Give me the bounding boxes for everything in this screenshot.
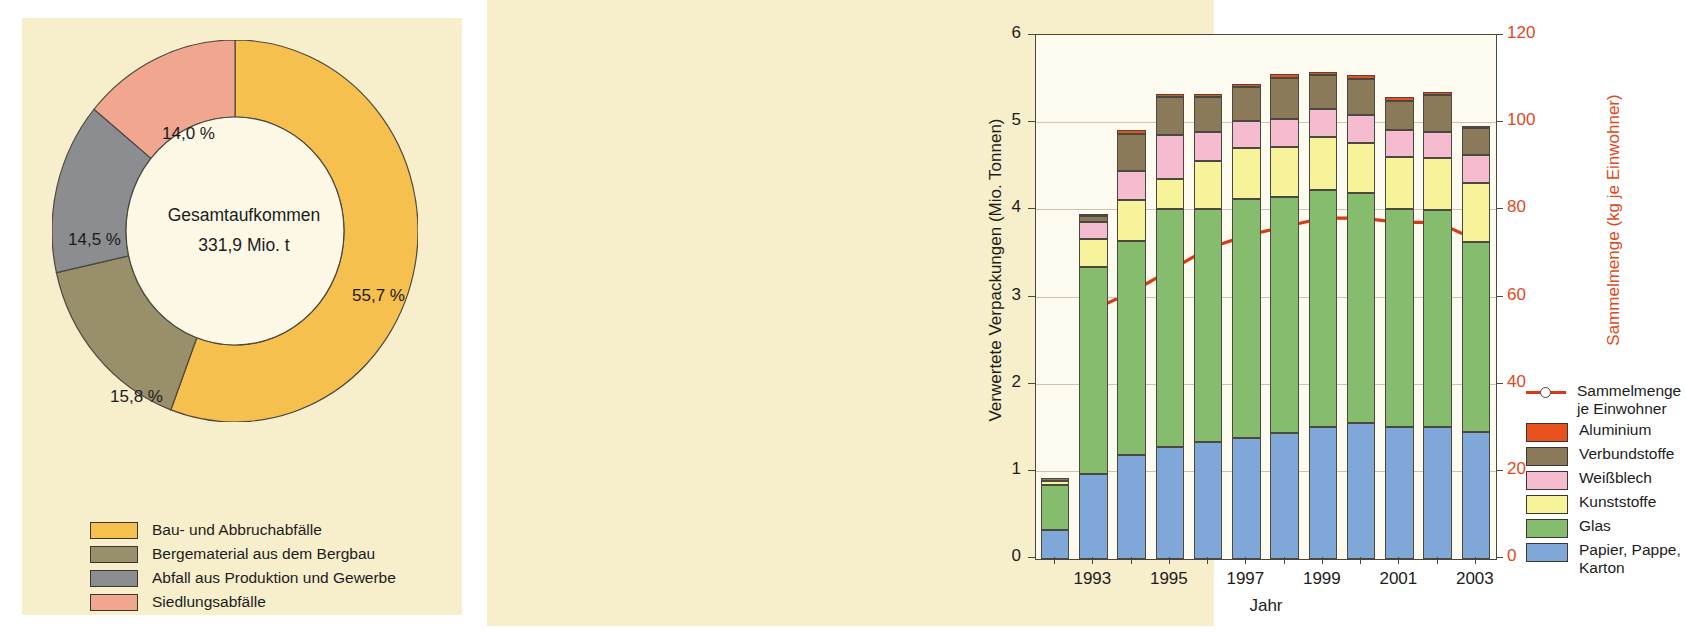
donut-legend-item-2[interactable]: Abfall aus Produktion und Gewerbe [90, 566, 396, 590]
bar-segment-1997-4[interactable] [1232, 87, 1260, 120]
x-tick-1994 [1131, 557, 1132, 564]
bar-segment-2000-2[interactable] [1347, 143, 1375, 193]
bar-segment-1999-4[interactable] [1309, 75, 1337, 109]
bar-legend-swatch-icon-1 [1526, 423, 1568, 442]
bar-segment-1993-5[interactable] [1079, 214, 1107, 216]
bar-2002[interactable] [1423, 92, 1451, 559]
bar-2003[interactable] [1462, 126, 1490, 559]
bar-segment-1997-5[interactable] [1232, 84, 1260, 87]
bar-segment-2001-4[interactable] [1385, 101, 1413, 131]
bar-legend-item-6[interactable]: Papier, Pappe,Karton [1526, 541, 1686, 577]
bar-segment-2002-5[interactable] [1423, 92, 1451, 95]
bar-segment-1994-1[interactable] [1117, 241, 1145, 455]
bar-segment-1997-3[interactable] [1232, 121, 1260, 148]
bar-1999[interactable] [1309, 72, 1337, 559]
bar-legend-item-1[interactable]: Aluminium [1526, 421, 1686, 442]
bar-segment-2003-4[interactable] [1462, 128, 1490, 155]
donut-legend-item-0[interactable]: Bau- und Abbruchabfälle [90, 518, 396, 542]
bar-segment-1995-2[interactable] [1156, 179, 1184, 210]
y-axis-title-left: Verwertete Verpackungen (Mio. Tonnen) [986, 10, 1006, 530]
donut-legend-item-1[interactable]: Bergematerial aus dem Bergbau [90, 542, 396, 566]
bar-segment-2003-1[interactable] [1462, 242, 1490, 432]
bar-segment-1993-0[interactable] [1079, 474, 1107, 559]
bar-1995[interactable] [1156, 94, 1184, 559]
bar-segment-1997-2[interactable] [1232, 148, 1260, 199]
bar-segment-2003-5[interactable] [1462, 126, 1490, 129]
bar-segment-2003-2[interactable] [1462, 183, 1490, 241]
bar-segment-1993-2[interactable] [1079, 239, 1107, 267]
bar-segment-1999-3[interactable] [1309, 109, 1337, 137]
bar-segment-1995-0[interactable] [1156, 447, 1184, 559]
bar-segment-2001-0[interactable] [1385, 427, 1413, 559]
bar-segment-2001-1[interactable] [1385, 209, 1413, 427]
bar-segment-2001-3[interactable] [1385, 130, 1413, 157]
bar-segment-1998-0[interactable] [1270, 433, 1298, 559]
bar-segment-1996-2[interactable] [1194, 161, 1222, 209]
bar-segment-1997-1[interactable] [1232, 199, 1260, 438]
bar-segment-2000-1[interactable] [1347, 193, 1375, 423]
bar-segment-2001-2[interactable] [1385, 157, 1413, 208]
y-tick-label-left-1: 1 [991, 459, 1021, 479]
bar-segment-1995-3[interactable] [1156, 135, 1184, 179]
bar-segment-1994-5[interactable] [1117, 130, 1145, 133]
bar-segment-1998-4[interactable] [1270, 78, 1298, 119]
bar-segment-1996-4[interactable] [1194, 97, 1222, 132]
bar-segment-1996-5[interactable] [1194, 94, 1222, 97]
bar-segment-2003-3[interactable] [1462, 155, 1490, 183]
bar-segment-2002-3[interactable] [1423, 132, 1451, 158]
bar-segment-1999-1[interactable] [1309, 190, 1337, 426]
bar-segment-2002-2[interactable] [1423, 158, 1451, 210]
bar-segment-2000-4[interactable] [1347, 79, 1375, 116]
bar-segment-1992-0[interactable] [1041, 530, 1069, 559]
bar-segment-1999-5[interactable] [1309, 72, 1337, 75]
bar-segment-1992-4[interactable] [1041, 478, 1069, 481]
bar-segment-2000-0[interactable] [1347, 423, 1375, 559]
bar-legend-item-5[interactable]: Glas [1526, 517, 1686, 538]
bar-1992[interactable] [1041, 478, 1069, 559]
bar-segment-1994-2[interactable] [1117, 200, 1145, 241]
bar-segment-2000-3[interactable] [1347, 115, 1375, 143]
bar-segment-1994-3[interactable] [1117, 171, 1145, 200]
bar-segment-1997-0[interactable] [1232, 438, 1260, 559]
bar-legend-item-0[interactable]: Sammelmengeje Einwohner [1526, 382, 1686, 418]
bar-legend-item-4[interactable]: Kunststoffe [1526, 493, 1686, 514]
bar-segment-1996-3[interactable] [1194, 132, 1222, 161]
bar-segment-1994-4[interactable] [1117, 134, 1145, 171]
bar-1994[interactable] [1117, 130, 1145, 559]
bar-segment-2000-5[interactable] [1347, 75, 1375, 78]
bar-1998[interactable] [1270, 74, 1298, 559]
bar-segment-2002-0[interactable] [1423, 427, 1451, 559]
bar-segment-1999-2[interactable] [1309, 137, 1337, 190]
bar-legend-label-line1-2: Verbundstoffe [1579, 445, 1674, 463]
donut-legend-item-3[interactable]: Siedlungsabfälle [90, 590, 396, 614]
bar-segment-2001-5[interactable] [1385, 97, 1413, 100]
bar-segment-1995-1[interactable] [1156, 209, 1184, 447]
bar-segment-1996-1[interactable] [1194, 209, 1222, 443]
bar-segment-2002-4[interactable] [1423, 95, 1451, 132]
bar-1997[interactable] [1232, 84, 1260, 559]
bar-2000[interactable] [1347, 75, 1375, 559]
bar-legend-item-3[interactable]: Weißblech [1526, 469, 1686, 490]
bar-segment-1995-5[interactable] [1156, 94, 1184, 97]
bar-segment-1993-4[interactable] [1079, 216, 1107, 221]
bar-segment-1996-0[interactable] [1194, 442, 1222, 559]
bar-segment-1999-0[interactable] [1309, 427, 1337, 559]
bar-segment-2002-1[interactable] [1423, 210, 1451, 427]
bar-2001[interactable] [1385, 97, 1413, 559]
bar-segment-1998-5[interactable] [1270, 74, 1298, 77]
bar-1996[interactable] [1194, 94, 1222, 559]
bar-segment-1992-2[interactable] [1041, 481, 1069, 485]
bar-segment-2003-0[interactable] [1462, 432, 1490, 559]
bar-segment-1993-1[interactable] [1079, 267, 1107, 474]
bar-legend-item-2[interactable]: Verbundstoffe [1526, 445, 1686, 466]
bar-legend-label-4: Kunststoffe [1579, 493, 1656, 511]
bar-segment-1998-3[interactable] [1270, 119, 1298, 147]
bar-segment-1998-1[interactable] [1270, 197, 1298, 433]
bar-segment-1995-4[interactable] [1156, 97, 1184, 134]
y-tick-left-0 [1028, 557, 1035, 558]
bar-segment-1992-1[interactable] [1041, 485, 1069, 530]
bar-segment-1993-3[interactable] [1079, 222, 1107, 239]
bar-1993[interactable] [1079, 215, 1107, 559]
bar-segment-1998-2[interactable] [1270, 147, 1298, 198]
bar-segment-1994-0[interactable] [1117, 455, 1145, 559]
